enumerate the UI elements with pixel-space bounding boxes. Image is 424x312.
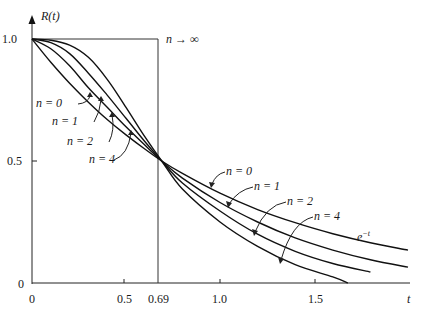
leader-n2-left — [109, 115, 113, 142]
x-axis-label: t — [407, 292, 411, 306]
arrowhead-icon — [128, 130, 134, 135]
right-label-n2: n = 2 — [287, 194, 313, 208]
y-tick-label-1.0: 1.0 — [2, 32, 17, 46]
curve-n4 — [32, 39, 348, 283]
x-tick-label-1.0: 1.0 — [212, 292, 227, 306]
arrowhead-icon — [278, 257, 284, 264]
n-infinity-label: n → ∞ — [166, 32, 199, 46]
curve-n2 — [32, 39, 370, 272]
x-tick-label-0.69: 0.69 — [148, 292, 169, 306]
arrowhead-icon — [209, 182, 215, 188]
right-label-n4: n = 4 — [314, 209, 340, 223]
x-tick-label-0: 0 — [29, 292, 35, 306]
reliability-chart: 1.0 0.5 0 0 0.5 0.69 1.0 1.5 t R(t) n → … — [0, 0, 424, 312]
y-tick-label-0.5: 0.5 — [7, 154, 22, 168]
y-tick-label-0: 0 — [18, 277, 24, 291]
right-label-n1: n = 1 — [254, 179, 280, 193]
y-axis-label: R(t) — [40, 9, 60, 23]
left-label-n0: n = 0 — [36, 96, 62, 110]
left-label-n2: n = 2 — [67, 134, 93, 148]
left-label-n4: n = 4 — [89, 152, 115, 166]
right-label-n0: n = 0 — [226, 164, 252, 178]
y-axis-arrow-icon — [29, 15, 36, 24]
x-tick-label-0.5: 0.5 — [117, 292, 132, 306]
arrowhead-icon — [252, 229, 258, 236]
left-label-n1: n = 1 — [52, 114, 78, 128]
leader-n0-right — [212, 172, 225, 184]
x-tick-label-1.5: 1.5 — [308, 292, 323, 306]
leader-n1-right — [229, 187, 253, 204]
